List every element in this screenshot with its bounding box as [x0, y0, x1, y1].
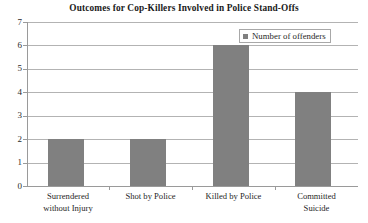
y-tick-label-7: 7	[6, 18, 22, 27]
x-label-line: Committed	[275, 191, 358, 203]
x-label-line: Killed by Police	[192, 191, 275, 203]
legend-swatch-icon	[243, 34, 248, 39]
x-label-line: without Injury	[27, 203, 109, 215]
x-tick-mark-3	[275, 186, 276, 190]
x-tick-mark-2	[192, 186, 193, 190]
y-tick-label-3: 3	[6, 111, 22, 120]
bar-killed-by-police	[213, 45, 249, 186]
x-label-committed-suicide: Committed Suicide	[275, 191, 358, 214]
y-tick-label-6: 6	[6, 41, 22, 50]
y-tick-label-4: 4	[6, 88, 22, 97]
y-tick-label-5: 5	[6, 64, 22, 73]
legend-label-number-of-offenders: Number of offenders	[252, 32, 326, 41]
y-axis-line	[27, 22, 28, 187]
bar-committed-suicide	[295, 92, 331, 186]
gridline-5	[27, 69, 358, 70]
y-tick-label-1: 1	[6, 158, 22, 167]
y-tick-label-2: 2	[6, 135, 22, 144]
y-tick-label-0: 0	[6, 182, 22, 191]
gridline-6	[27, 45, 358, 46]
chart-legend: Number of offenders	[239, 29, 331, 43]
gridline-7	[27, 22, 358, 23]
x-label-line: Shot by Police	[109, 191, 192, 203]
x-label-killed-by-police: Killed by Police	[192, 191, 275, 203]
bar-shot-by-police	[130, 139, 166, 186]
x-label-line: Surrendered	[27, 191, 109, 203]
bar-surrendered-without-injury	[48, 139, 84, 186]
x-label-line: Suicide	[275, 203, 358, 215]
x-tick-mark-1	[109, 186, 110, 190]
chart-title: Outcomes for Cop-Killers Involved in Pol…	[0, 3, 368, 13]
y-axis-labels: 7 6 5 4 3 2 1 0	[0, 0, 22, 223]
x-label-surrendered-without-injury: Surrendered without Injury	[27, 191, 109, 214]
plot-area	[27, 22, 358, 186]
x-label-shot-by-police: Shot by Police	[109, 191, 192, 203]
bar-chart: Outcomes for Cop-Killers Involved in Pol…	[0, 0, 368, 223]
